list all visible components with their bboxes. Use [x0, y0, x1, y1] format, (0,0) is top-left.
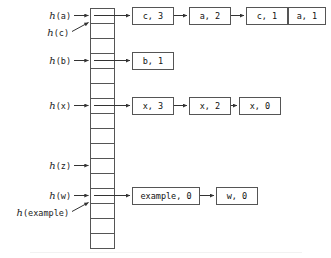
- chain-node: b, 1: [132, 52, 174, 70]
- pointer-label-c: h(c): [47, 27, 69, 39]
- pointer-label-w: h(w): [49, 190, 71, 202]
- hash-table-diagram: h(a)h(c)h(b)h(x)h(z)h(w)h(example) c, 3a…: [0, 0, 331, 258]
- diagram-lines: [72, 9, 288, 249]
- chain-node: x, 0: [239, 97, 281, 115]
- chain-node: c, 1: [246, 7, 288, 25]
- hash-fn-arg: (a): [56, 11, 71, 21]
- diagram-vector-layer: [0, 0, 331, 258]
- pointer-label-x: h(x): [49, 100, 71, 112]
- chain-node: x, 3: [132, 97, 174, 115]
- chain-node: w, 0: [216, 187, 258, 205]
- hash-fn-arg: (w): [56, 191, 71, 201]
- hash-fn-arg: (z): [56, 161, 71, 171]
- pointer-label-b: h(b): [49, 55, 71, 67]
- hash-fn-arg: (example): [23, 208, 69, 218]
- pointer-label-a: h(a): [49, 10, 71, 22]
- pointer-arrow-c: [72, 23, 89, 32]
- hash-fn-arg: (c): [54, 28, 69, 38]
- chain-node: x, 2: [189, 97, 231, 115]
- hash-fn-arg: (b): [56, 56, 71, 66]
- chain-node: c, 3: [132, 7, 174, 25]
- chain-node: a, 2: [189, 7, 231, 25]
- chain-node: a, 1: [288, 7, 326, 25]
- pointer-label-example: h(example): [16, 207, 69, 219]
- hash-fn-arg: (x): [56, 101, 71, 111]
- bottom-divider: [30, 252, 302, 253]
- chain-node: example, 0: [132, 187, 200, 205]
- pointer-label-z: h(z): [49, 160, 71, 172]
- pointer-arrow-example: [72, 203, 89, 212]
